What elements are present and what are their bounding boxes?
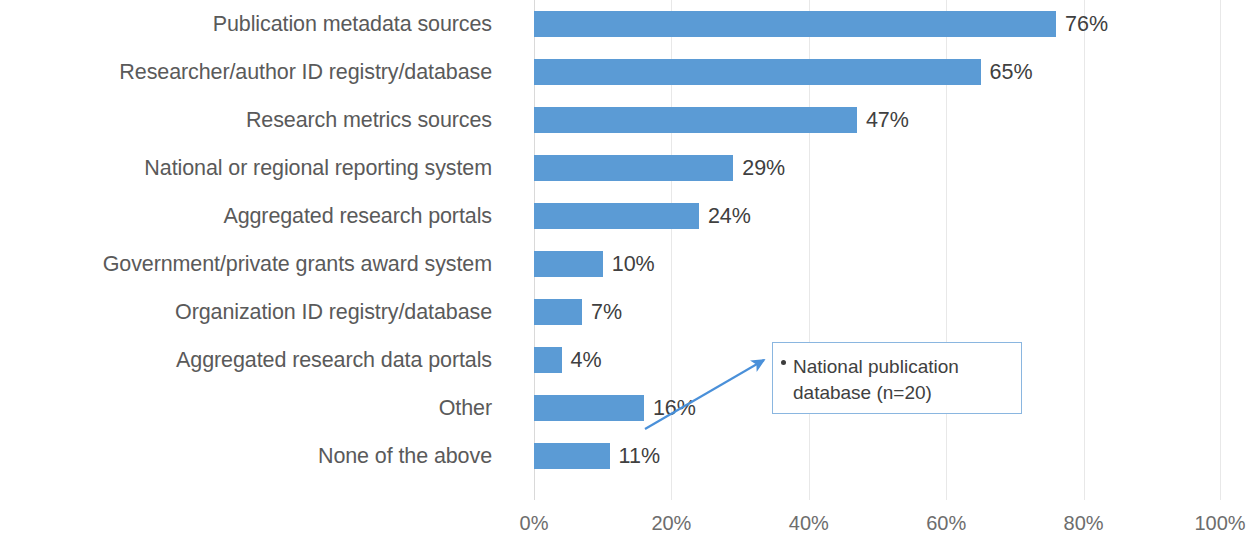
- bar-row: Researcher/author ID registry/database 6…: [534, 48, 1221, 96]
- callout-text: National publication database (n=20): [793, 354, 1013, 406]
- category-label: None of the above: [0, 432, 510, 480]
- bar-value-label: 24%: [699, 192, 751, 240]
- category-label: Publication metadata sources: [0, 0, 510, 48]
- bar[interactable]: [534, 299, 582, 325]
- bar[interactable]: [534, 443, 610, 469]
- bar-row: None of the above 11%: [534, 432, 1221, 480]
- category-label: Government/private grants award system: [0, 240, 510, 288]
- x-tick-label: 20%: [651, 512, 691, 535]
- bar[interactable]: [534, 107, 857, 133]
- category-label: Organization ID registry/database: [0, 288, 510, 336]
- bar-row: Government/private grants award system 1…: [534, 240, 1221, 288]
- x-tick-label: 40%: [789, 512, 829, 535]
- x-tick-label: 60%: [926, 512, 966, 535]
- callout-box: National publication database (n=20): [772, 342, 1022, 414]
- bar-value-label: 4%: [562, 336, 602, 384]
- x-tick-label: 0%: [520, 512, 549, 535]
- bar[interactable]: [534, 251, 603, 277]
- bar-value-label: 47%: [857, 96, 909, 144]
- x-tick-label: 80%: [1064, 512, 1104, 535]
- x-tick-label: 100%: [1194, 512, 1245, 535]
- callout-line-1: National publication: [793, 356, 959, 377]
- bar-row: Research metrics sources 47%: [534, 96, 1221, 144]
- bar-value-label: 16%: [644, 384, 696, 432]
- bar-row: Organization ID registry/database 7%: [534, 288, 1221, 336]
- category-label: Aggregated research portals: [0, 192, 510, 240]
- bar[interactable]: [534, 347, 562, 373]
- bar-value-label: 7%: [582, 288, 622, 336]
- category-label: Research metrics sources: [0, 96, 510, 144]
- bar[interactable]: [534, 203, 699, 229]
- bar-row: Aggregated research portals 24%: [534, 192, 1221, 240]
- bar-chart: Publication metadata sources 76% Researc…: [0, 0, 1250, 546]
- bar-row: Publication metadata sources 76%: [534, 0, 1221, 48]
- bar-value-label: 10%: [603, 240, 655, 288]
- bar[interactable]: [534, 395, 644, 421]
- category-label: Aggregated research data portals: [0, 336, 510, 384]
- x-axis: 0% 20% 40% 60% 80% 100%: [534, 500, 1221, 546]
- category-label: Other: [0, 384, 510, 432]
- bar-value-label: 29%: [733, 144, 785, 192]
- callout-bullet-icon: [781, 360, 786, 365]
- bar-value-label: 76%: [1056, 0, 1108, 48]
- bar[interactable]: [534, 59, 981, 85]
- bar[interactable]: [534, 11, 1056, 37]
- plot-area: Publication metadata sources 76% Researc…: [534, 0, 1221, 500]
- callout-line-2: database (n=20): [793, 382, 932, 403]
- category-label: Researcher/author ID registry/database: [0, 48, 510, 96]
- category-label: National or regional reporting system: [0, 144, 510, 192]
- bar[interactable]: [534, 155, 733, 181]
- bar-value-label: 11%: [610, 432, 660, 480]
- bar-value-label: 65%: [981, 48, 1033, 96]
- bar-row: National or regional reporting system 29…: [534, 144, 1221, 192]
